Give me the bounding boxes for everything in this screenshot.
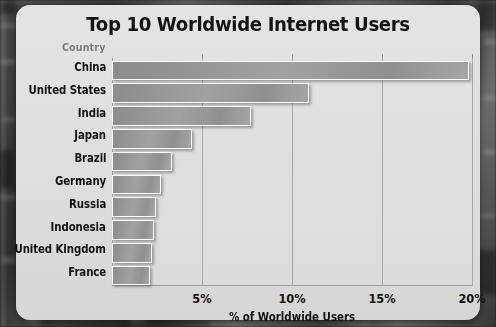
category-label-china: China [74, 60, 106, 74]
bar-brazil[interactable] [112, 152, 172, 172]
bar-row: India [112, 104, 472, 127]
category-label-united-kingdom: United Kingdom [15, 242, 106, 256]
category-label-india: India [78, 106, 106, 120]
bar-united-kingdom[interactable] [112, 243, 152, 263]
bar-united-states[interactable] [112, 83, 309, 103]
bar-china[interactable] [112, 61, 469, 81]
bar-row: United Kingdom [112, 240, 472, 263]
x-tick-label-20%: 20% [458, 291, 485, 306]
category-label-united-states: United States [28, 83, 106, 97]
category-label-japan: Japan [74, 128, 106, 142]
category-label-germany: Germany [55, 174, 106, 188]
bar-india[interactable] [112, 106, 251, 126]
bar-row: United States [112, 81, 472, 104]
x-tick-label-10%: 10% [278, 291, 305, 306]
tick-mark-20% [472, 54, 473, 58]
bar-france[interactable] [112, 266, 150, 286]
y-axis-title: Country [62, 41, 105, 53]
bar-japan[interactable] [112, 129, 192, 149]
bar-row: Japan [112, 126, 472, 149]
bar-germany[interactable] [112, 175, 161, 195]
chart-card: Top 10 Worldwide Internet Users Country … [16, 5, 480, 320]
bar-indonesia[interactable] [112, 220, 154, 240]
bar-row: China [112, 58, 472, 81]
plot-area: ChinaUnited StatesIndiaJapanBrazilGerman… [112, 58, 472, 286]
bar-row: France [112, 263, 472, 286]
gridline-20% [472, 58, 473, 286]
chart-title: Top 10 Worldwide Internet Users [32, 13, 464, 36]
x-tick-label-15%: 15% [368, 291, 395, 306]
x-tick-label-5%: 5% [192, 291, 211, 306]
category-label-indonesia: Indonesia [51, 220, 106, 234]
bar-row: Brazil [112, 149, 472, 172]
category-label-brazil: Brazil [74, 151, 106, 165]
x-axis-title: % of Worldwide Users [130, 310, 454, 324]
category-label-russia: Russia [69, 197, 106, 211]
bar-row: Indonesia [112, 218, 472, 241]
bar-row: Russia [112, 195, 472, 218]
bar-russia[interactable] [112, 197, 156, 217]
bar-row: Germany [112, 172, 472, 195]
category-label-france: France [68, 265, 106, 279]
